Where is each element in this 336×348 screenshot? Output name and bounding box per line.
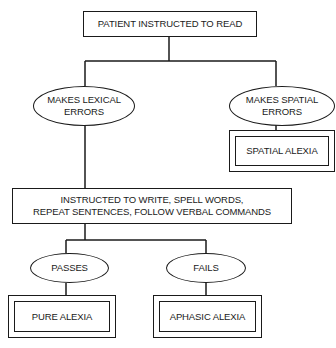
spatial-errors-node: MAKES SPATIAL ERRORS (229, 86, 335, 126)
pure-alexia-label: PURE ALEXIA (32, 311, 93, 323)
instructed-label-line1: INSTRUCTED TO WRITE, SPELL WORDS, (61, 194, 244, 206)
spatial-alexia-inner-box: SPATIAL ALEXIA (235, 136, 329, 166)
instructed-label-line2: REPEAT SENTENCES, FOLLOW VERBAL COMMANDS (33, 206, 271, 218)
instructed-node: INSTRUCTED TO WRITE, SPELL WORDS, REPEAT… (12, 188, 292, 224)
lexical-label-line2: ERRORS (64, 106, 104, 118)
lexical-errors-node: MAKES LEXICAL ERRORS (33, 86, 135, 126)
spatial-label-line1: MAKES SPATIAL (246, 94, 318, 106)
fails-label: FAILS (193, 262, 218, 274)
start-node: PATIENT INSTRUCTED TO READ (83, 11, 257, 37)
aphasic-alexia-inner-box: APHASIC ALEXIA (159, 301, 256, 332)
passes-label: PASSES (51, 262, 88, 274)
pure-alexia-inner-box: PURE ALEXIA (14, 301, 110, 332)
passes-node: PASSES (30, 253, 109, 283)
aphasic-alexia-node: APHASIC ALEXIA (153, 295, 262, 338)
spatial-alexia-node: SPATIAL ALEXIA (229, 130, 335, 172)
pure-alexia-node: PURE ALEXIA (8, 295, 116, 338)
aphasic-alexia-label: APHASIC ALEXIA (170, 311, 246, 323)
lexical-label-line1: MAKES LEXICAL (47, 94, 121, 106)
spatial-label-line2: ERRORS (262, 106, 302, 118)
start-label: PATIENT INSTRUCTED TO READ (98, 18, 242, 30)
spatial-alexia-label: SPATIAL ALEXIA (246, 145, 317, 157)
fails-node: FAILS (166, 253, 246, 283)
